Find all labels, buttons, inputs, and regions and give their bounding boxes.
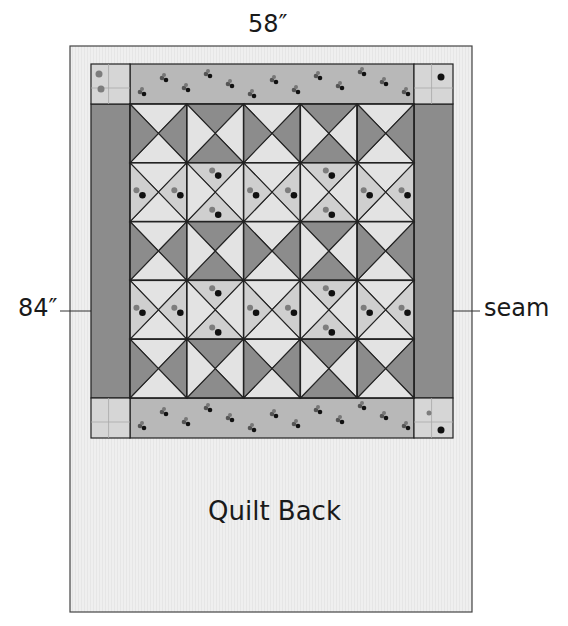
quilt-block [130,339,187,398]
fabric-dot [285,305,291,311]
fabric-motif [140,421,144,425]
quilt-block [244,280,301,339]
fabric-dot [215,290,222,297]
fabric-motif [382,77,386,81]
fabric-dot [177,310,184,317]
fabric-motif [272,409,276,413]
fabric-dot [133,305,139,311]
fabric-dot [291,310,298,317]
fabric-motif [294,419,298,423]
fabric-motif [230,418,235,423]
quilt-block [187,163,244,222]
fabric-dot [329,212,336,219]
fabric-dot [399,187,405,193]
fabric-motif [142,92,147,97]
fabric-motif [208,408,213,413]
fabric-motif [360,401,364,405]
height-dimension-label: 84″ [18,296,58,320]
quilt-block [187,104,244,163]
fabric-motif [406,92,411,97]
fabric-dot [209,324,215,330]
top-border [130,64,414,104]
fabric-dot [323,324,329,330]
corner-square [91,64,130,104]
quilt-block [187,222,244,281]
quilt-block [130,163,187,222]
fabric-dot [215,172,222,179]
fabric-dot [285,187,291,193]
fabric-motif [294,85,298,89]
fabric-motif [316,405,320,409]
fabric-dot [438,74,445,81]
fabric-motif [208,74,213,79]
quilt-block [130,280,187,339]
fabric-motif [186,88,191,93]
fabric-motif [230,84,235,89]
fabric-motif [406,426,411,431]
fabric-dot [133,187,139,193]
fabric-motif [184,417,188,421]
fabric-motif [384,416,389,421]
fabric-motif [252,94,257,99]
quilt-block [130,104,187,163]
quilt-block [244,339,301,398]
quilt-block [300,339,357,398]
fabric-motif [384,82,389,87]
quilt-block [357,222,414,281]
fabric-motif [296,424,301,429]
quilt-block [357,104,414,163]
fabric-motif [274,414,279,419]
fabric-dot [215,329,222,336]
fabric-dot [247,305,253,311]
fabric-dot [253,192,260,199]
fabric-dot [404,192,411,199]
fabric-dot [139,192,146,199]
fabric-dot [247,187,253,193]
fabric-dot [366,310,373,317]
right-border [414,104,453,398]
fabric-motif [362,72,367,77]
fabric-motif [338,415,342,419]
fabric-motif [274,80,279,85]
fabric-dot [329,290,336,297]
fabric-dot [171,187,177,193]
fabric-motif [164,412,169,417]
fabric-dot [291,192,298,199]
fabric-motif [360,67,364,71]
fabric-dot [329,172,336,179]
fabric-dot [96,71,103,78]
fabric-dot [427,411,432,416]
quilt-block [300,163,357,222]
fabric-motif [228,413,232,417]
corner-square [414,64,453,104]
fabric-motif [338,81,342,85]
quilt-block [130,222,187,281]
fabric-motif [162,73,166,77]
fabric-dot [177,192,184,199]
fabric-motif [142,426,147,431]
seam-label: seam [484,296,549,320]
fabric-motif [272,75,276,79]
fabric-motif [296,90,301,95]
corner-square [91,398,130,438]
fabric-motif [206,69,210,73]
fabric-dot [361,187,367,193]
fabric-dot [209,285,215,291]
fabric-motif [186,422,191,427]
quilt-block [244,222,301,281]
fabric-motif [250,89,254,93]
quilt-back-title: Quilt Back [208,498,341,524]
fabric-dot [404,310,411,317]
fabric-motif [382,411,386,415]
fabric-motif [404,87,408,91]
fabric-motif [164,78,169,83]
fabric-dot [438,427,445,434]
fabric-motif [362,406,367,411]
fabric-motif [162,407,166,411]
fabric-dot [323,285,329,291]
fabric-dot [366,192,373,199]
fabric-motif [140,87,144,91]
fabric-dot [399,305,405,311]
quilt-block [244,104,301,163]
fabric-motif [340,86,345,91]
